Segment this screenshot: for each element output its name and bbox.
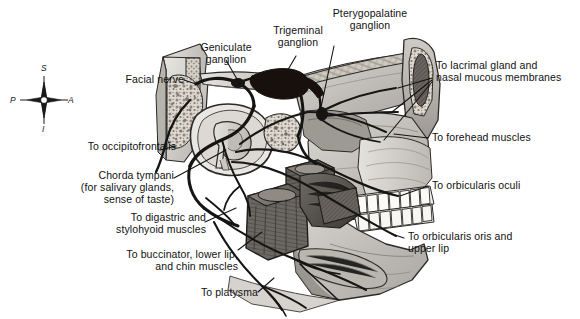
label-geniculate-ganglion: Geniculate ganglion [186,42,266,66]
label-facial-nerve: Facial nerve [100,74,184,86]
label-digastric-stylohyoid: To digastric and stylohyoid muscles [84,212,206,236]
label-chorda-tympani: Chorda tympani (for salivary glands, sen… [48,170,174,205]
figure-canvas: S I A P Facial nerve Geniculate ganglion… [0,0,580,319]
compass-label-inferior: I [42,124,44,134]
label-lacrimal-gland: To lacrimal gland and nasal mucous membr… [436,60,580,84]
compass-label-superior: S [41,63,47,73]
label-platysma: To platysma [186,287,258,299]
compass-label-anterior: A [68,95,74,105]
label-orbicularis-oris: To orbicularis oris and upper lip [408,231,558,255]
label-orbicularis-oculi: To orbicularis oculi [432,180,562,192]
label-occipitofrontalis: To occipitofrontalis [62,141,176,153]
label-pterygopalatine-ganglion: Pterygopalatine ganglion [318,8,422,32]
label-buccinator: To buccinator, lower lip, and chin muscl… [76,249,238,273]
compass-label-posterior: P [10,95,16,105]
label-forehead-muscles: To forehead muscles [432,132,562,144]
